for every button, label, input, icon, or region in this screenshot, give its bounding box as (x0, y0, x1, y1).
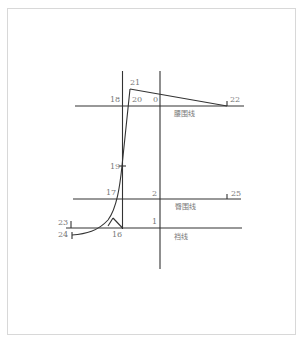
label-point-23: 23 (58, 218, 68, 227)
label-point-18: 18 (110, 95, 120, 104)
label-point-21: 21 (130, 78, 140, 87)
label-point-16: 16 (112, 230, 122, 239)
label-point-17: 17 (106, 188, 116, 197)
waist-curve (130, 89, 227, 106)
pattern-diagram: 21 18 20 0 22 腰围线 19 17 2 25 臀围线 23 1 24… (0, 0, 302, 339)
label-point-22: 22 (230, 95, 240, 104)
label-point-2: 2 (152, 189, 157, 198)
label-point-24: 24 (58, 230, 68, 239)
label-point-1: 1 (152, 217, 157, 226)
label-point-20: 20 (132, 95, 142, 104)
label-point-0: 0 (153, 95, 158, 104)
label-crotch-line: 裆线 (174, 232, 188, 241)
label-hip-line: 臀围线 (175, 202, 196, 211)
label-waist-line: 腰围线 (174, 109, 195, 118)
crotch-diagonal (113, 218, 123, 228)
label-point-25: 25 (231, 189, 241, 198)
label-point-19: 19 (110, 162, 120, 171)
front-rise-curve (72, 89, 130, 235)
